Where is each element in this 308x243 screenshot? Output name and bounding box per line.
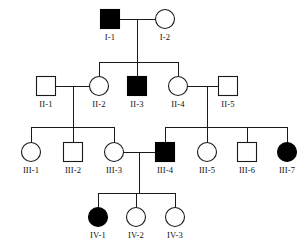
individual-symbol-iii-2-square-open: [64, 143, 83, 162]
individual-label-i-2: I-2: [160, 32, 170, 42]
individual-label-iii-4: III-4: [157, 165, 174, 175]
individual-label-iii-6: III-6: [239, 165, 256, 175]
individual-symbol-ii-2-circle-open: [90, 77, 109, 96]
individual-symbol-iii-7-circle-filled: [278, 143, 297, 162]
pedigree-canvas: I-1I-2II-1II-2II-3II-4II-5III-1III-2III-…: [0, 0, 308, 243]
individual-symbols-group: [22, 10, 297, 227]
individual-symbol-i-1-square-filled: [101, 10, 120, 29]
individual-symbol-iv-2-circle-open: [127, 208, 146, 227]
individual-label-i-1: I-1: [105, 32, 115, 42]
individual-label-iii-2: III-2: [65, 165, 81, 175]
individual-label-ii-2: II-2: [92, 99, 105, 109]
individual-label-iii-5: III-5: [199, 165, 215, 175]
individual-label-iv-2: IV-2: [128, 230, 144, 240]
individual-symbol-iii-3-circle-open: [105, 143, 124, 162]
individual-symbol-iv-1-circle-filled: [89, 208, 108, 227]
individual-symbol-ii-5-square-open: [219, 77, 238, 96]
individual-label-ii-1: II-1: [39, 99, 52, 109]
individual-symbol-ii-1-square-open: [37, 77, 56, 96]
individual-symbol-ii-3-square-filled: [128, 77, 147, 96]
individual-label-ii-4: II-4: [171, 99, 185, 109]
individual-label-ii-3: II-3: [130, 99, 143, 109]
individual-label-iv-1: IV-1: [90, 230, 106, 240]
individual-symbol-i-2-circle-open: [156, 10, 175, 29]
individual-label-iii-3: III-3: [106, 165, 122, 175]
individual-symbol-iii-4-square-filled: [156, 143, 175, 162]
pedigree-chart: I-1I-2II-1II-2II-3II-4II-5III-1III-2III-…: [0, 0, 308, 243]
individual-label-iv-3: IV-3: [167, 230, 183, 240]
connector-lines-group: [31, 19, 287, 208]
individual-symbol-ii-4-circle-open: [169, 77, 188, 96]
individual-label-ii-5: II-5: [221, 99, 234, 109]
individual-symbol-iii-6-square-open: [238, 143, 257, 162]
individual-symbol-iii-5-circle-open: [198, 143, 217, 162]
individual-labels-group: I-1I-2II-1II-2II-3II-4II-5III-1III-2III-…: [23, 32, 296, 240]
individual-label-iii-7: III-7: [279, 165, 296, 175]
individual-symbol-iv-3-circle-open: [166, 208, 185, 227]
individual-label-iii-1: III-1: [23, 165, 39, 175]
individual-symbol-iii-1-circle-open: [22, 143, 41, 162]
